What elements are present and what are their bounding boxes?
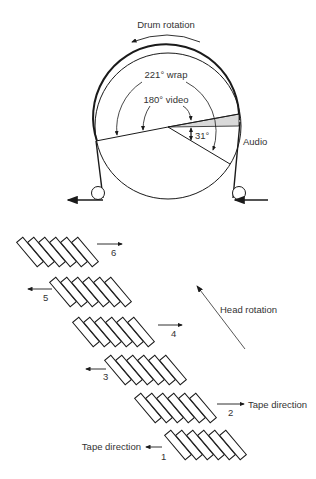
head-rotation-arrow: [197, 286, 245, 349]
tape-direction-left-label: Tape direction: [82, 441, 141, 452]
audio-label: Audio: [243, 136, 267, 147]
track-2-number: 2: [228, 407, 233, 418]
track-group-4: [73, 317, 182, 347]
track-3-number: 3: [103, 371, 108, 382]
helical-scan-diagram: Drum rotation 221° wrap 180° video 31° A…: [0, 0, 316, 479]
left-guide-roller: [92, 187, 105, 200]
track-1-number: 1: [161, 451, 166, 462]
track-group-3: [86, 355, 186, 385]
angle-label: 31°: [195, 130, 210, 141]
right-guide-roller: [233, 187, 246, 200]
video-label: 180° video: [144, 94, 189, 105]
track-6-number: 6: [111, 247, 116, 258]
drum-rotation-label: Drum rotation: [137, 19, 195, 30]
wrap-label: 221° wrap: [145, 69, 188, 80]
drum-rotation-arrow: [132, 35, 200, 42]
track-5-number: 5: [43, 292, 48, 303]
tape-path: [68, 122, 268, 200]
tape-direction-right-label: Tape direction: [248, 399, 307, 410]
head-rotation-label: Head rotation: [220, 304, 277, 315]
drum: [93, 44, 241, 199]
track-4-number: 4: [171, 328, 176, 339]
track-group-6: [17, 237, 122, 267]
